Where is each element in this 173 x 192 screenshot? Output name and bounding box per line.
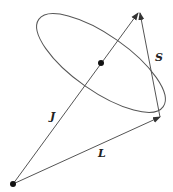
label-l: L xyxy=(97,147,106,160)
vector-j xyxy=(13,13,138,184)
vector-s xyxy=(140,13,160,117)
label-j: J xyxy=(48,110,56,123)
label-s: S xyxy=(155,51,163,64)
precession-center-dot xyxy=(98,60,104,66)
vector-l xyxy=(13,117,160,184)
origin-dot xyxy=(10,181,16,187)
vector-diagram: J S L xyxy=(0,0,173,192)
